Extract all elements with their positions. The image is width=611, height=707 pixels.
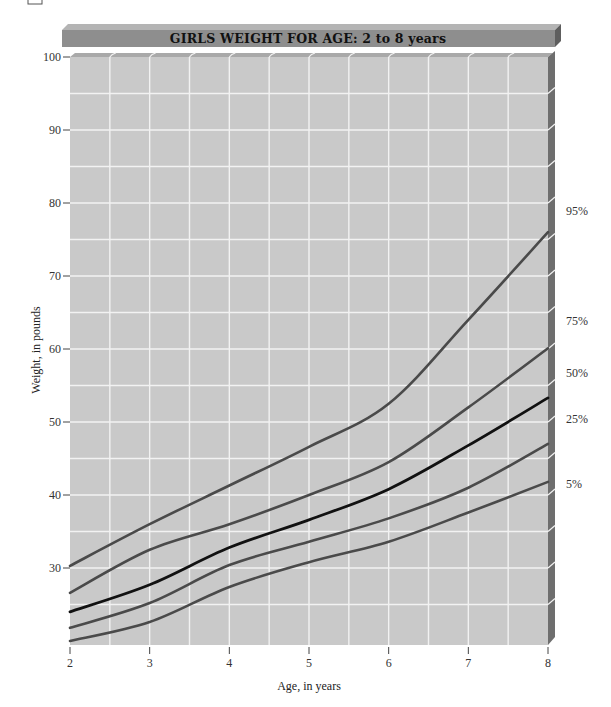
percentile-label: 5% [566, 477, 582, 491]
plot-area [70, 51, 555, 645]
y-tick-label: 30 [49, 561, 61, 575]
x-tick-label: 3 [147, 656, 153, 670]
y-tick-label: 80 [49, 196, 61, 210]
y-axis-title: Weight, in pounds [29, 306, 43, 394]
y-tick-label: 60 [49, 342, 61, 356]
percentile-labels: 95%75%50%25%5% [566, 204, 588, 491]
x-axis-title: Age, in years [277, 679, 341, 693]
growth-chart: GIRLS WEIGHT FOR AGE: 2 to 8 years 30405… [0, 0, 611, 707]
x-tick-label: 8 [545, 656, 551, 670]
x-tick-label: 4 [226, 656, 232, 670]
title-bar: GIRLS WEIGHT FOR AGE: 2 to 8 years [62, 24, 561, 47]
y-tick-label: 50 [49, 415, 61, 429]
x-tick-label: 6 [386, 656, 392, 670]
x-tick-label: 5 [306, 656, 312, 670]
y-tick-label: 100 [43, 50, 61, 64]
chart-canvas: GIRLS WEIGHT FOR AGE: 2 to 8 years 30405… [0, 0, 611, 707]
y-tick-label: 40 [49, 488, 61, 502]
chart-title: GIRLS WEIGHT FOR AGE: 2 to 8 years [170, 31, 446, 46]
percentile-label: 95% [566, 204, 588, 218]
title-bar-top-bevel [62, 24, 561, 30]
percentile-label: 75% [566, 314, 588, 328]
y-tick-label: 70 [49, 269, 61, 283]
y-axis: 30405060708090100 [43, 50, 70, 575]
corner-box [28, 0, 42, 4]
x-tick-label: 7 [465, 656, 471, 670]
x-tick-label: 2 [67, 656, 73, 670]
y-tick-label: 90 [49, 123, 61, 137]
x-axis: 2345678 [67, 647, 551, 670]
percentile-label: 25% [566, 412, 588, 426]
percentile-label: 50% [566, 366, 588, 380]
